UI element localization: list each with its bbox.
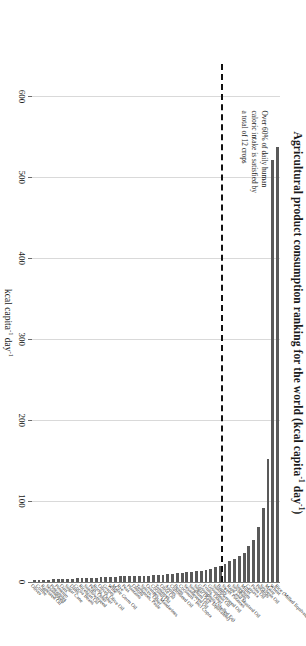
axis-tick-label: 300 <box>17 332 27 346</box>
bar <box>252 540 255 582</box>
bar-row <box>147 64 150 582</box>
bar <box>233 559 236 582</box>
chart-title-text-end: ) <box>292 511 304 515</box>
bar-row <box>171 64 174 582</box>
bar-row <box>214 64 217 582</box>
bar-row <box>85 64 88 582</box>
bar <box>257 527 260 582</box>
bar <box>205 570 208 582</box>
bar <box>224 564 227 582</box>
bar-row <box>152 64 155 582</box>
axis-tick-label: 200 <box>17 413 27 427</box>
axis-tick-label: 600 <box>17 90 27 104</box>
value-axis-title-mid: day <box>3 335 13 351</box>
bar-row <box>128 64 131 582</box>
axis-tick-label: 0 <box>17 580 27 585</box>
bar-row <box>276 64 279 582</box>
bar-row <box>109 64 112 582</box>
bar <box>271 160 274 582</box>
bar-row <box>95 64 98 582</box>
category-axis-labels: Rice (Milled Equivalent)WheatMaizeSoybea… <box>32 582 280 646</box>
bar-row <box>271 64 274 582</box>
bar-row <box>114 64 117 582</box>
bar-row <box>143 64 146 582</box>
axis-tick-label: 100 <box>17 494 27 508</box>
bar-row <box>200 64 203 582</box>
bar-row <box>157 64 160 582</box>
bar <box>176 573 179 582</box>
threshold-line <box>221 64 223 582</box>
bar-row <box>181 64 184 582</box>
bar-row <box>100 64 103 582</box>
value-axis-superscript-2: -1 <box>8 351 15 356</box>
plot-area: Over 60% of daily human caloric intake i… <box>32 64 280 582</box>
annotation-text: Over 60% of daily human caloric intake i… <box>239 110 268 230</box>
bar-row <box>119 64 122 582</box>
axis-tick <box>28 96 32 97</box>
bar <box>228 561 231 582</box>
bar-row <box>224 64 227 582</box>
bar-row <box>228 64 231 582</box>
value-axis-title: kcal capita-1 day-1 <box>3 64 15 582</box>
bar-row <box>176 64 179 582</box>
bar <box>181 573 184 582</box>
bar-row <box>61 64 64 582</box>
bar-row <box>76 64 79 582</box>
annotation-line-3: a total of 12 crops <box>239 110 249 230</box>
bar <box>247 546 250 582</box>
axis-tick-label: 400 <box>17 252 27 266</box>
bar <box>162 575 165 582</box>
bar-row <box>90 64 93 582</box>
bar-row <box>123 64 126 582</box>
bar <box>200 571 203 582</box>
bar <box>276 147 279 582</box>
bar-row <box>233 64 236 582</box>
bar-row <box>166 64 169 582</box>
axis-tick <box>28 258 32 259</box>
bar <box>152 575 155 582</box>
bar <box>157 575 160 582</box>
bar <box>185 572 188 582</box>
chart-title-text: Agricultural product consumption ranking… <box>292 132 304 477</box>
bar <box>267 459 270 582</box>
annotation-line-2: caloric intake is satisfied by <box>249 110 259 230</box>
bar <box>243 553 246 582</box>
axis-tick <box>28 177 32 178</box>
chart-title: Agricultural product consumption ranking… <box>292 0 306 646</box>
bar-row <box>195 64 198 582</box>
bar-row <box>133 64 136 582</box>
bar <box>195 571 198 582</box>
bar-row <box>138 64 141 582</box>
bar-row <box>52 64 55 582</box>
chart-canvas: Agricultural product consumption ranking… <box>0 0 306 646</box>
bar-row <box>190 64 193 582</box>
axis-tick-label: 500 <box>17 171 27 185</box>
bar-row <box>162 64 165 582</box>
annotation-line-1: Over 60% of daily human <box>259 110 269 230</box>
bar <box>190 572 193 582</box>
bar-row <box>42 64 45 582</box>
bar <box>262 508 265 582</box>
bar-row <box>209 64 212 582</box>
value-axis-title-text: kcal capita <box>3 289 13 330</box>
axis-tick <box>28 420 32 421</box>
bar-row <box>57 64 60 582</box>
chart-title-text-mid: day <box>292 483 304 504</box>
bar <box>171 574 174 582</box>
bar <box>238 556 241 582</box>
axis-tick <box>28 501 32 502</box>
axis-tick <box>28 339 32 340</box>
bar-row <box>38 64 41 582</box>
bar-row <box>71 64 74 582</box>
bar <box>209 569 212 582</box>
bar-row <box>104 64 107 582</box>
bar-row <box>33 64 36 582</box>
bar-row <box>205 64 208 582</box>
bar-row <box>47 64 50 582</box>
bar-row <box>81 64 84 582</box>
bar-row <box>66 64 69 582</box>
bar <box>214 567 217 582</box>
bar-row <box>185 64 188 582</box>
bar <box>166 574 169 582</box>
